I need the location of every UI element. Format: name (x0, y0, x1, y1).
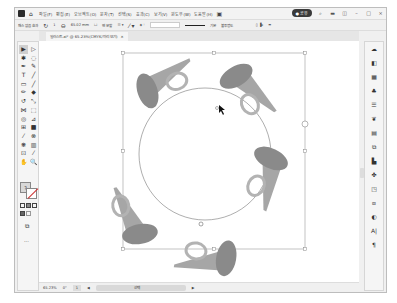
stroke-weight[interactable]: 기본 (210, 23, 216, 28)
current-tool-label: 선택 (134, 285, 140, 291)
menu-right-group: ● 공유 ⌕ ▬ ◫ – □ × (292, 9, 385, 17)
paragraph-icon[interactable]: ¶ (365, 238, 383, 252)
transform-icon[interactable]: ⊖ (61, 22, 66, 29)
perspective-tool[interactable]: ⊿ (29, 115, 38, 124)
screen-mode-icon[interactable]: ⧉ (25, 222, 29, 230)
character-icon[interactable]: A| (365, 224, 383, 238)
menu-window[interactable]: 윈도우(W) (171, 11, 190, 17)
layers-icon[interactable]: ◧ (365, 56, 383, 70)
menu-select[interactable]: 선택(S) (118, 11, 132, 17)
scale-tool[interactable]: ⤡ (29, 97, 38, 106)
rotate-icon[interactable]: ↻ (43, 22, 48, 29)
width-tool[interactable]: ⋈ (19, 106, 28, 115)
paintbrush-tool[interactable]: ╱ (29, 80, 38, 89)
transform-icon[interactable]: ◳ (365, 182, 383, 196)
canvas-artboard[interactable] (39, 41, 359, 282)
home-icon[interactable]: ⌂ (29, 11, 35, 17)
pen-tool[interactable]: ✒ (19, 62, 28, 71)
slice-tool[interactable]: ⁄ (29, 149, 38, 158)
zoom-level[interactable]: 65.23% (43, 286, 57, 290)
eraser-tool[interactable]: ◆ (29, 88, 38, 97)
stroke-box[interactable] (26, 188, 37, 199)
gradient-tool[interactable]: ■ (29, 123, 38, 132)
horn-shapes (110, 58, 292, 277)
magic-wand-tool[interactable]: ✱ (19, 54, 28, 63)
rotate-value[interactable]: 1 (53, 23, 55, 27)
arrange-documents-icon[interactable]: ▣ (217, 10, 223, 17)
color-icon[interactable]: ◐ (365, 210, 383, 224)
align-icon[interactable]: ▯ ▐▸ (256, 23, 264, 27)
align-dropdown[interactable]: ☰ ▾ (117, 23, 123, 27)
next-artboard-button[interactable]: ▶ (192, 286, 195, 290)
minimize-button[interactable]: – (353, 10, 360, 16)
symbol-sprayer-tool[interactable]: ❋ (19, 141, 28, 150)
mesh-tool[interactable]: ⊞ (19, 123, 28, 132)
graphic-styles-icon[interactable]: ▤ (365, 126, 383, 140)
gradient-button[interactable] (26, 203, 31, 208)
document-tab[interactable]: 일러스트.ai* @ 65.23%(CMYK/미리 보기) × (46, 32, 128, 41)
more-tools-icon[interactable]: ··· (24, 238, 29, 244)
hand-tool[interactable]: ✋ (19, 158, 28, 167)
line-tool[interactable]: ╱ (29, 71, 38, 80)
none-button[interactable] (32, 203, 37, 208)
shape-builder-tool[interactable]: ◎ (19, 115, 28, 124)
draw-normal-button[interactable] (20, 211, 25, 216)
close-tab-icon[interactable]: × (120, 32, 123, 41)
pencil-tool[interactable]: ✏ (19, 88, 28, 97)
blend-tool[interactable]: ⊗ (29, 132, 38, 141)
menu-help[interactable]: 도움말(H) (194, 11, 212, 17)
artboard-navigator[interactable]: 1 (73, 285, 81, 291)
brush-dropdown[interactable]: ⁄ ▾ (129, 22, 135, 29)
rotate-tool[interactable]: ↺ (19, 97, 28, 106)
graph-tool[interactable]: ▥ (29, 141, 38, 150)
status-tool-scroll[interactable]: 선택 (96, 285, 186, 291)
fill-stroke-swatch[interactable]: ? (20, 182, 37, 200)
width-field[interactable]: 65.02 mm (71, 23, 89, 27)
type-tool[interactable]: T (19, 71, 28, 80)
logo-icon[interactable] (18, 10, 25, 17)
opacity-label[interactable]: 불투명도 (221, 23, 233, 28)
menu-effect[interactable]: 효과(C) (136, 11, 150, 17)
menu-view[interactable]: 보기(V) (154, 11, 168, 17)
stroke-stepper[interactable]: ◈ ⁝ (140, 23, 145, 27)
brushes-icon[interactable]: ☰ (365, 98, 383, 112)
maximize-button[interactable]: □ (365, 10, 372, 16)
properties-icon[interactable]: ☁ (365, 42, 383, 56)
menu-file[interactable]: 파일(F) (39, 11, 52, 17)
rectangle-tool[interactable]: ▭ (19, 80, 28, 89)
control-bar: 패스 없음 효과 ↻ 1 ⊖ 65.02 mm ☐ 면 분할 ☰ ▾ ⁄ ▾ ◈… (15, 19, 386, 31)
panel-icon[interactable]: ◫ (341, 10, 348, 16)
artwork[interactable] (39, 41, 359, 282)
divide-checkbox[interactable]: ☐ (94, 23, 97, 27)
share-button[interactable]: ● 공유 (292, 9, 313, 17)
free-transform-tool[interactable]: ⬚ (29, 106, 38, 115)
artboards-icon[interactable]: ⧈ (365, 196, 383, 210)
prev-artboard-button[interactable]: ◀ (87, 286, 90, 290)
menu-object[interactable]: 오브젝트(O) (74, 11, 96, 17)
libraries-icon[interactable]: ▦ (365, 70, 383, 84)
appearance-icon[interactable]: ⧉ (365, 140, 383, 154)
symbols-icon[interactable]: ❦ (365, 112, 383, 126)
close-button[interactable]: × (377, 10, 384, 16)
align-icon[interactable]: ▙ (365, 154, 383, 168)
share-label: 공유 (300, 10, 308, 16)
stroke-field[interactable] (150, 22, 180, 28)
menu-edit[interactable]: 편집(E) (56, 11, 70, 17)
curvature-tool[interactable]: ✎ (29, 62, 38, 71)
stroke-preview[interactable] (185, 25, 205, 26)
zoom-tool[interactable]: 🔍 (29, 158, 38, 167)
rotation-value[interactable]: 0° (63, 286, 67, 290)
eyedropper-tool[interactable]: ⁄ (19, 132, 28, 141)
pathfinder-icon[interactable]: ✤ (365, 168, 383, 182)
search-icon[interactable]: ⌕ (317, 10, 324, 17)
artboard-tool[interactable]: ⊡ (19, 149, 28, 158)
lasso-tool[interactable]: ◌ (29, 54, 38, 63)
color-button[interactable] (20, 203, 25, 208)
selection-tool[interactable]: ▶ (19, 45, 28, 54)
arrange-icon[interactable]: ▬ (329, 10, 336, 16)
swatches-icon[interactable]: ♣ (365, 84, 383, 98)
direct-selection-tool[interactable]: ▷ (29, 45, 38, 54)
menu-type[interactable]: 문자(T) (100, 11, 114, 17)
more-options-icon[interactable]: ≡ (268, 23, 271, 27)
draw-behind-button[interactable] (26, 211, 31, 216)
